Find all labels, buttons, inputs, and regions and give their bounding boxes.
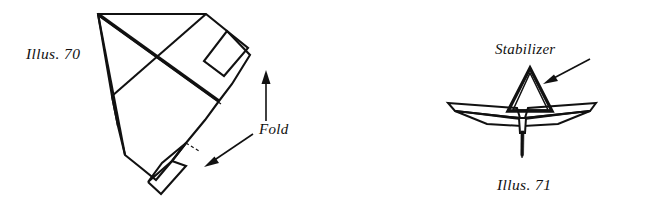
figure-page: Fold Illus. 70 (0, 0, 654, 204)
illustration-canvas: Fold Illus. 70 (0, 0, 654, 204)
fold-label: Fold (258, 121, 289, 137)
canvas-background (0, 0, 654, 204)
illus-70-caption: Illus. 70 (25, 45, 80, 62)
plane-nose-spike (521, 131, 524, 158)
stabilizer-label: Stabilizer (495, 41, 556, 57)
illus-71-caption: Illus. 71 (496, 176, 551, 193)
